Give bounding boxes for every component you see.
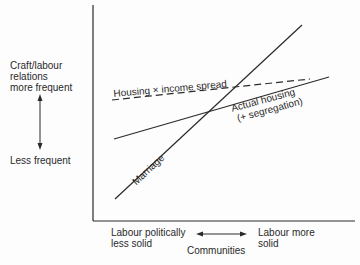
x-axis-title: Communities bbox=[187, 245, 245, 256]
x-right-label: Labour more solid bbox=[258, 227, 315, 249]
x-left-label: Labour politically less solid bbox=[111, 227, 186, 249]
x-left-label-line2: less solid bbox=[111, 238, 186, 249]
horizontal-double-arrow-icon bbox=[196, 232, 247, 237]
vertical-double-arrow-icon bbox=[38, 94, 43, 150]
x-right-label-line1: Labour more bbox=[258, 227, 315, 238]
x-right-label-line2: solid bbox=[258, 238, 315, 249]
x-left-label-line1: Labour politically bbox=[111, 227, 186, 238]
y-top-label-line2: relations bbox=[10, 71, 72, 82]
y-top-label: Craft/labour relations more frequent bbox=[10, 60, 72, 93]
y-bottom-label: Less frequent bbox=[10, 155, 71, 166]
diagram-canvas bbox=[0, 0, 360, 265]
y-top-label-line1: Craft/labour bbox=[10, 60, 72, 71]
y-top-label-line3: more frequent bbox=[10, 82, 72, 93]
diagram: Craft/labour relations more frequent Les… bbox=[0, 0, 360, 265]
